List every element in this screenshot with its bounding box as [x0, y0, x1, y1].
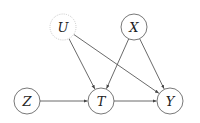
- node-label: X: [128, 20, 139, 35]
- node-u: U: [50, 14, 76, 40]
- node-z: Z: [14, 88, 40, 114]
- causal-diagram: UXZTY: [0, 0, 200, 123]
- node-x: X: [121, 14, 147, 40]
- node-label: T: [97, 94, 107, 109]
- node-label: Y: [166, 94, 176, 109]
- node-label: Z: [21, 94, 32, 109]
- edge-x-to-t: [106, 39, 128, 89]
- nodes: UXZTY: [14, 14, 183, 114]
- edge-u-to-y: [74, 34, 159, 93]
- node-label: U: [58, 20, 70, 35]
- node-t: T: [88, 88, 114, 114]
- edge-x-to-y: [140, 39, 164, 89]
- node-y: Y: [157, 88, 183, 114]
